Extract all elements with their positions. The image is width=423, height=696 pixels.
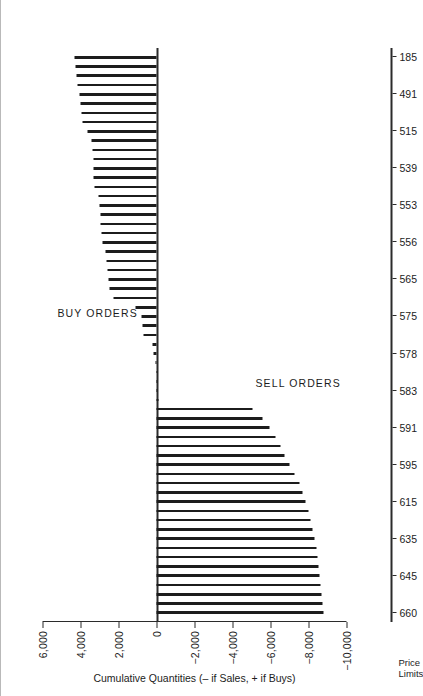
bar <box>108 278 156 281</box>
bar <box>156 602 322 605</box>
bar <box>156 528 312 531</box>
price-limit-tick-label: 660 <box>399 607 417 619</box>
bar <box>93 167 156 170</box>
bar <box>156 519 310 522</box>
price-limit-tick-label: 635 <box>399 533 417 545</box>
sell-orders-annotation: SELL ORDERS <box>255 377 340 389</box>
bar <box>105 250 156 253</box>
bar <box>156 436 275 439</box>
value-axis-tick <box>80 622 81 628</box>
category-axis-tick <box>392 56 396 57</box>
bar <box>113 297 156 300</box>
category-axis-tick <box>392 315 396 316</box>
price-limit-tick-label: 583 <box>399 385 417 397</box>
value-axis-tick <box>308 622 309 628</box>
bar <box>156 547 316 550</box>
bar <box>141 315 156 318</box>
value-axis-title: Cumulative Quantities (– if Sales, + if … <box>93 672 295 684</box>
bar <box>156 380 157 383</box>
value-axis-tick-label: −6,000 <box>264 631 276 665</box>
bar <box>156 611 323 614</box>
price-limit-tick-label: 565 <box>399 273 417 285</box>
bar <box>106 260 156 263</box>
category-axis-tick <box>392 427 396 428</box>
price-limit-tick-label: 515 <box>399 125 417 137</box>
bar <box>156 565 318 568</box>
category-axis-line <box>390 48 392 622</box>
value-axis-tick-label: 6,000 <box>36 631 48 658</box>
bar <box>93 158 156 161</box>
bar <box>77 84 156 87</box>
bar <box>94 186 156 189</box>
category-axis-tick <box>392 130 396 131</box>
value-axis-tick <box>270 622 271 628</box>
bar <box>156 408 252 411</box>
value-axis-tick-label: −8,000 <box>302 631 314 665</box>
price-limit-tick-label: 185 <box>399 51 417 63</box>
category-axis-tick <box>392 390 396 391</box>
bar <box>156 399 158 402</box>
bar <box>142 324 156 327</box>
bar <box>156 500 305 503</box>
bar <box>156 463 289 466</box>
bar <box>156 491 302 494</box>
bar <box>92 149 156 152</box>
price-limit-tick-label: 575 <box>399 310 417 322</box>
category-axis-tick <box>392 575 396 576</box>
bar <box>135 306 156 309</box>
price-limit-tick-label: 578 <box>399 348 417 360</box>
bar <box>76 74 156 77</box>
bar <box>75 65 156 68</box>
bar <box>93 176 156 179</box>
bar <box>143 334 156 337</box>
bar <box>100 213 156 216</box>
bar <box>156 454 284 457</box>
value-axis-tick-label: 2,000 <box>112 631 124 658</box>
bar <box>81 112 156 115</box>
value-axis-tick-label: 4,000 <box>74 631 86 658</box>
category-axis-tick <box>392 464 396 465</box>
bar <box>79 93 156 96</box>
bar <box>102 241 156 244</box>
price-limit-tick-label: 553 <box>399 199 417 211</box>
bar <box>107 269 156 272</box>
price-limit-tick-label: 491 <box>399 88 417 100</box>
value-axis-tick <box>118 622 119 628</box>
value-axis-tick-label: 0 <box>150 631 162 637</box>
plot-area: 6,0004,0002,0000−2,000−4,000−6,000−8,000… <box>42 48 346 622</box>
category-axis-tick <box>392 278 396 279</box>
price-limits-caption-line1: Price <box>398 658 423 669</box>
bar <box>156 389 157 392</box>
bar <box>156 556 317 559</box>
bar <box>156 482 299 485</box>
category-axis-tick <box>392 353 396 354</box>
bar <box>91 139 156 142</box>
category-axis-tick <box>392 538 396 539</box>
category-axis-tick <box>392 167 396 168</box>
value-axis-tick-label: −2,000 <box>188 631 200 665</box>
value-axis-tick <box>42 622 43 628</box>
bar <box>109 287 157 290</box>
price-limit-tick-label: 591 <box>399 422 417 434</box>
category-axis-tick <box>392 241 396 242</box>
bar <box>156 510 308 513</box>
bar <box>87 130 156 133</box>
price-limits-caption-line2: Limits <box>398 669 423 680</box>
value-axis-tick <box>156 622 157 628</box>
category-axis-tick <box>392 93 396 94</box>
price-limit-tick-label: 539 <box>399 162 417 174</box>
bar <box>156 426 269 429</box>
buy-orders-annotation: BUY ORDERS <box>57 307 137 319</box>
bar <box>152 343 156 346</box>
price-limit-tick-label: 645 <box>399 570 417 582</box>
price-limit-tick-label: 556 <box>399 236 417 248</box>
bar <box>156 445 280 448</box>
bar <box>156 417 262 420</box>
price-limits-caption: Price Limits <box>398 658 423 679</box>
price-limit-tick-label: 595 <box>399 459 417 471</box>
bar <box>80 102 156 105</box>
bar <box>153 352 156 355</box>
bar <box>98 195 156 198</box>
